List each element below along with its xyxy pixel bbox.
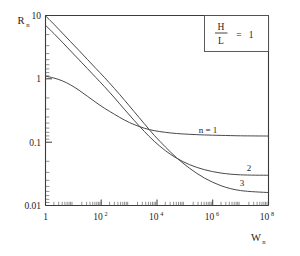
- x-tick-exponent: 4: [160, 210, 163, 217]
- curve-labels: n = 1 2 3: [199, 125, 252, 188]
- x-tick-label: 10: [205, 212, 215, 222]
- y-axis-major-ticks: [46, 16, 53, 206]
- curve-n-1: [46, 76, 269, 136]
- annotation-numerator: H: [218, 22, 225, 32]
- curve-label-n-2: 2: [247, 163, 252, 173]
- curve-label-n-1: n = 1: [199, 125, 218, 135]
- x-tick-exponent: 2: [104, 210, 107, 217]
- curve-label-n-3: 3: [240, 178, 245, 188]
- y-tick-label: 0.01: [24, 201, 41, 211]
- y-axis-title-subscript: n: [26, 21, 30, 28]
- annotation-denominator: L: [218, 36, 224, 46]
- x-axis-major-ticks: [46, 200, 269, 206]
- y-axis-title: R: [17, 15, 24, 26]
- annotation-value: 1: [249, 30, 254, 40]
- chart-figure: 10 1 0.1 0.01 1 10 2 10 4 10 6 10 8 R n …: [0, 0, 300, 256]
- x-axis-title: W: [251, 232, 261, 243]
- annotation-box: H L = 1: [205, 16, 269, 52]
- annotation-equals: =: [236, 30, 241, 40]
- x-axis-title-subscript: n: [262, 238, 266, 245]
- y-tick-label: 0.1: [29, 138, 41, 148]
- x-tick-label: 10: [149, 212, 159, 222]
- y-axis-tick-labels: 10 1 0.1 0.01: [24, 11, 41, 211]
- x-axis-minor-ticks: [54, 202, 267, 206]
- x-tick-label: 10: [260, 212, 270, 222]
- y-axis-minor-ticks: [46, 35, 50, 203]
- x-tick-exponent: 6: [216, 210, 219, 217]
- x-tick-exponent: 8: [271, 210, 274, 217]
- y-tick-label: 10: [32, 11, 42, 21]
- x-axis-tick-labels: 1 10 2 10 4 10 6 10 8: [43, 210, 274, 223]
- x-tick-label: 1: [43, 212, 48, 222]
- y-tick-label: 1: [36, 74, 41, 84]
- x-tick-label: 10: [93, 212, 103, 222]
- chart-canvas: 10 1 0.1 0.01 1 10 2 10 4 10 6 10 8 R n …: [0, 0, 300, 256]
